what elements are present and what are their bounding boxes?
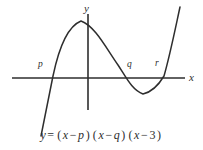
equation-lhs: y xyxy=(40,128,45,142)
equation-open-paren-3: ( xyxy=(127,128,134,142)
equation-minus-3: − xyxy=(140,128,150,142)
equation-equals: = xyxy=(46,128,56,142)
root-label-r: r xyxy=(155,59,159,69)
equation-minus-1: − xyxy=(68,128,78,142)
cubic-curve-path xyxy=(41,7,180,136)
root-label-p: p xyxy=(38,60,43,70)
y-axis-label: y xyxy=(84,3,89,14)
x-axis-label: x xyxy=(189,72,194,83)
equation-close-paren-2: ) xyxy=(120,128,127,142)
equation-caption: y=(x−p)(x−q)(x−3) xyxy=(0,129,203,141)
cubic-graph-figure: y x p q r y=(x−p)(x−q)(x−3) xyxy=(0,0,203,150)
equation-open-paren-1: ( xyxy=(56,128,63,142)
equation-var-3: x xyxy=(134,128,139,142)
equation-close-paren-3: ) xyxy=(156,128,163,142)
equation-root-q: q xyxy=(114,128,120,142)
root-label-q: q xyxy=(127,60,132,70)
equation-constant-3: 3 xyxy=(149,128,155,142)
equation-minus-2: − xyxy=(104,128,114,142)
